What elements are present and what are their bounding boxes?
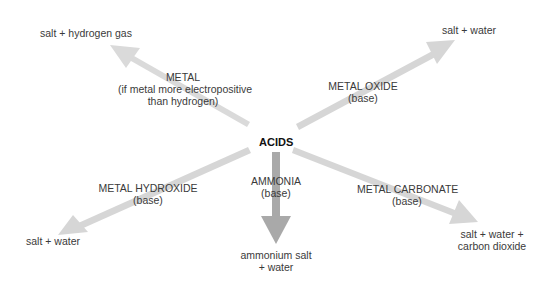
reagent-ammonia: AMMONIA (base) (246, 175, 306, 199)
product-line: carbon dioxide (450, 240, 534, 252)
reagent-line: METAL HYDROXIDE (98, 182, 198, 194)
reagent-line: AMMONIA (246, 175, 306, 187)
product-line: + water (236, 261, 316, 273)
product-metal-carbonate: salt + water + carbon dioxide (450, 228, 534, 252)
reagent-line: METAL CARBONATE (357, 183, 457, 195)
center-label-acids: ACIDS (259, 136, 293, 148)
product-line: salt + hydrogen gas (40, 27, 132, 39)
product-metal-oxide: salt + water (442, 24, 496, 36)
reagent-line: (if metal more electropositive (118, 83, 248, 95)
reagent-metal-oxide: METAL OXIDE (base) (323, 80, 403, 104)
reagent-line: than hydrogen) (118, 95, 248, 107)
product-metal-hydroxide: salt + water (26, 235, 80, 247)
reagent-line: (base) (357, 195, 457, 207)
reagent-metal: METAL (if metal more electropositive tha… (118, 71, 248, 107)
product-line: salt + water (442, 24, 496, 36)
reagent-line: METAL (118, 71, 248, 83)
reagent-metal-carbonate: METAL CARBONATE (base) (357, 183, 457, 207)
product-line: salt + water + (450, 228, 534, 240)
product-line: ammonium salt (236, 249, 316, 261)
product-line: salt + water (26, 235, 80, 247)
product-metal: salt + hydrogen gas (40, 27, 132, 39)
reagent-line: (base) (246, 187, 306, 199)
reagent-line: METAL OXIDE (323, 80, 403, 92)
product-ammonia: ammonium salt + water (236, 249, 316, 273)
reagent-line: (base) (323, 92, 403, 104)
reagent-metal-hydroxide: METAL HYDROXIDE (base) (98, 182, 198, 206)
reagent-line: (base) (98, 194, 198, 206)
